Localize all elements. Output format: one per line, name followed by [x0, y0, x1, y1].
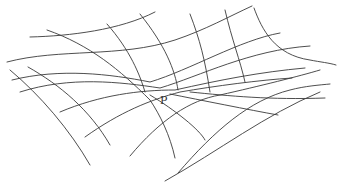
v-curve-7 [225, 10, 245, 82]
u-curve-1 [30, 12, 155, 37]
u-curve-9 [165, 92, 320, 181]
u-curve-4 [20, 46, 310, 92]
v-curve-4 [107, 24, 145, 92]
v-curve-10 [170, 94, 278, 115]
surface-grid [0, 0, 341, 182]
u-curve-2 [7, 6, 252, 62]
v-curve-1 [47, 30, 175, 158]
u-curve-3 [12, 33, 280, 82]
point-p-label: P [160, 95, 167, 106]
u-curve-7 [130, 70, 320, 156]
saddle-surface-diagram: P [0, 0, 341, 182]
v-curve-6 [190, 14, 210, 92]
v-curve-3 [10, 70, 90, 165]
